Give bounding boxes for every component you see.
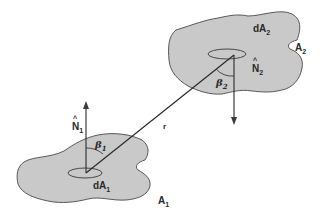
label-n1: N1 — [72, 121, 83, 134]
surface-a2-blob — [169, 12, 303, 94]
label-n2-hat: ^ — [253, 57, 257, 64]
view-factor-diagram: dA2 A2 N2 ^ β2 r N1 ^ β1 dA1 A1 — [0, 0, 321, 224]
connector-r-line — [86, 55, 234, 173]
label-r: r — [163, 122, 166, 131]
label-n1-hat: ^ — [73, 115, 77, 122]
label-a1: A1 — [158, 195, 169, 208]
